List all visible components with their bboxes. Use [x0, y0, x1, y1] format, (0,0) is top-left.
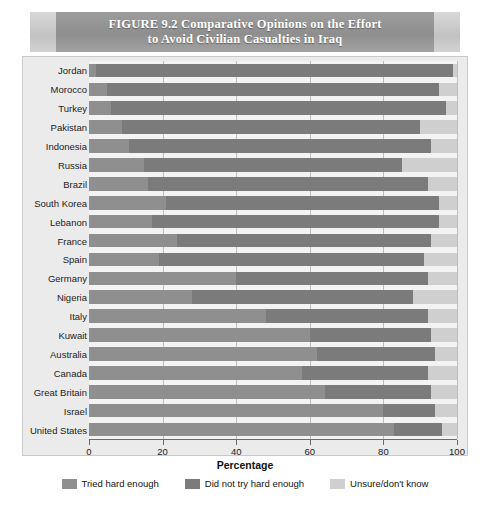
- bar-segment-2: [152, 215, 439, 229]
- country-label-lebanon: Lebanon: [50, 216, 87, 227]
- bar-segment-3: [435, 347, 457, 361]
- x-tick-mark: [310, 440, 311, 445]
- country-label-kuwait: Kuwait: [58, 330, 87, 341]
- bar-segment-2: [129, 139, 431, 153]
- chart-row: France: [23, 231, 469, 250]
- chart-row: Brazil: [23, 174, 469, 193]
- chart-row: Canada: [23, 363, 469, 382]
- x-tick-mark: [383, 440, 384, 445]
- x-tick-label: 80: [378, 446, 389, 457]
- bar-segment-3: [424, 253, 457, 267]
- bar-segment-2: [148, 177, 428, 191]
- bar-segment-2: [159, 253, 424, 267]
- bar-segment-3: [446, 101, 457, 115]
- bar-segment-1: [89, 328, 310, 342]
- country-label-spain: Spain: [63, 254, 87, 265]
- stacked-bar: [89, 366, 457, 380]
- legend-item: Unsure/don't know: [330, 478, 428, 489]
- bar-segment-1: [89, 347, 317, 361]
- bar-segment-2: [122, 120, 420, 134]
- stacked-bar: [89, 290, 457, 304]
- stacked-bar: [89, 328, 457, 342]
- bar-segment-3: [439, 83, 457, 97]
- bar-segment-2: [394, 423, 442, 437]
- figure-title-line1: FIGURE 9.2 Comparative Opinions on the E…: [108, 17, 381, 31]
- bar-segment-2: [107, 83, 438, 97]
- country-label-italy: Italy: [70, 311, 87, 322]
- bar-segment-3: [439, 215, 457, 229]
- bar-segment-2: [96, 64, 453, 78]
- legend-swatch-icon: [330, 479, 345, 489]
- stacked-bar: [89, 253, 457, 267]
- bar-segment-2: [325, 385, 432, 399]
- bar-segment-3: [402, 158, 457, 172]
- bar-segment-3: [439, 196, 457, 210]
- chart-row: Germany: [23, 269, 469, 288]
- stacked-bar: [89, 158, 457, 172]
- x-tick-label: 40: [231, 446, 242, 457]
- x-tick-label: 100: [449, 446, 465, 457]
- stacked-bar: [89, 423, 457, 437]
- country-label-canada: Canada: [54, 367, 87, 378]
- banner-cap-left-decoration: [30, 12, 56, 52]
- chart-legend: Tried hard enoughDid not try hard enough…: [22, 478, 468, 489]
- country-label-israel: Israel: [64, 405, 87, 416]
- bar-segment-3: [420, 120, 457, 134]
- country-label-great-britain: Great Britain: [34, 386, 87, 397]
- bar-segment-1: [89, 177, 148, 191]
- bar-segment-2: [111, 101, 446, 115]
- bar-segment-2: [192, 290, 413, 304]
- x-tick-mark: [89, 440, 90, 445]
- stacked-bar: [89, 83, 457, 97]
- chart-row: Israel: [23, 401, 469, 420]
- bar-segment-3: [431, 234, 457, 248]
- country-label-south-korea: South Korea: [34, 197, 87, 208]
- stacked-bar: [89, 101, 457, 115]
- x-tick-label: 60: [305, 446, 316, 457]
- stacked-bar: [89, 177, 457, 191]
- x-tick-mark: [236, 440, 237, 445]
- bar-segment-3: [431, 139, 457, 153]
- legend-item: Tried hard enough: [62, 478, 159, 489]
- bar-segment-3: [428, 177, 457, 191]
- chart-row: Spain: [23, 250, 469, 269]
- country-label-france: France: [57, 235, 87, 246]
- chart-row: South Korea: [23, 193, 469, 212]
- stacked-bar: [89, 347, 457, 361]
- bar-segment-2: [302, 366, 427, 380]
- legend-item: Did not try hard enough: [185, 478, 304, 489]
- legend-label: Tried hard enough: [82, 478, 159, 489]
- country-label-indonesia: Indonesia: [46, 141, 87, 152]
- chart-row: Great Britain: [23, 382, 469, 401]
- chart-row: Russia: [23, 156, 469, 175]
- chart-row: Indonesia: [23, 137, 469, 156]
- banner-cap-right-decoration: [434, 12, 460, 52]
- chart-row: Kuwait: [23, 326, 469, 345]
- bar-segment-2: [266, 309, 428, 323]
- bar-segment-1: [89, 139, 129, 153]
- stacked-bar: [89, 385, 457, 399]
- bar-segment-1: [89, 158, 144, 172]
- bar-segment-3: [431, 385, 457, 399]
- bar-segment-3: [413, 290, 457, 304]
- bar-segment-1: [89, 253, 159, 267]
- figure-title-banner: FIGURE 9.2 Comparative Opinions on the E…: [30, 12, 460, 52]
- country-label-jordan: Jordan: [58, 65, 87, 76]
- chart-row: Nigeria: [23, 288, 469, 307]
- bar-segment-1: [89, 366, 302, 380]
- bar-segment-2: [310, 328, 431, 342]
- stacked-bar: [89, 234, 457, 248]
- chart-row: Italy: [23, 307, 469, 326]
- bar-segment-1: [89, 309, 266, 323]
- country-label-united-states: United States: [30, 424, 87, 435]
- x-tick-mark: [457, 440, 458, 445]
- x-tick-label: 20: [157, 446, 168, 457]
- chart-row: Morocco: [23, 80, 469, 99]
- bar-segment-1: [89, 234, 177, 248]
- x-axis-title: Percentage: [22, 459, 468, 471]
- chart-row: Turkey: [23, 99, 469, 118]
- bar-segment-2: [317, 347, 435, 361]
- chart-row: Lebanon: [23, 212, 469, 231]
- stacked-bar: [89, 215, 457, 229]
- bar-segment-3: [428, 309, 457, 323]
